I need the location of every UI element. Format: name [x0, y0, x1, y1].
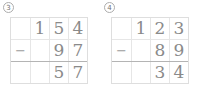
minus-operator-icon: −	[11, 40, 30, 61]
minuend-row: 1 5 4	[11, 18, 87, 39]
answer-row: 5 7	[11, 61, 87, 83]
answer-row: 3 4	[112, 61, 188, 83]
problem-number-badge: 4	[104, 2, 115, 13]
subtrahend-cell-1	[30, 40, 49, 61]
minuend-cell-1: 1	[30, 18, 49, 39]
answer-cell-2: 3	[150, 62, 169, 83]
subtrahend-cell-1	[131, 40, 150, 61]
subtrahend-cell-2: 9	[49, 40, 68, 61]
minuend-cell-2: 2	[150, 18, 169, 39]
minus-operator-icon: −	[112, 40, 131, 61]
minuend-cell-1: 1	[131, 18, 150, 39]
problem-3: 3 1 5 4 − 9 7 5 7	[0, 0, 101, 91]
answer-cell-3: 7	[68, 62, 87, 83]
minuend-cell-0	[11, 18, 30, 39]
calculation-grid: 1 2 3 − 8 9 3 4	[111, 17, 189, 84]
problem-4: 4 1 2 3 − 8 9 3 4	[101, 0, 202, 91]
answer-cell-1	[131, 62, 150, 83]
answer-cell-2: 5	[49, 62, 68, 83]
calculation-grid: 1 5 4 − 9 7 5 7	[10, 17, 88, 84]
minuend-row: 1 2 3	[112, 18, 188, 39]
subtrahend-cell-3: 9	[169, 40, 188, 61]
minuend-cell-3: 3	[169, 18, 188, 39]
subtrahend-row: − 8 9	[112, 39, 188, 61]
minuend-cell-0	[112, 18, 131, 39]
answer-cell-1	[30, 62, 49, 83]
subtrahend-cell-3: 7	[68, 40, 87, 61]
minuend-cell-2: 5	[49, 18, 68, 39]
minuend-cell-3: 4	[68, 18, 87, 39]
subtrahend-cell-2: 8	[150, 40, 169, 61]
answer-cell-3: 4	[169, 62, 188, 83]
worksheet: 3 1 5 4 − 9 7 5 7 4	[0, 0, 202, 91]
answer-cell-0	[112, 62, 131, 83]
problem-number-badge: 3	[3, 2, 14, 13]
subtrahend-row: − 9 7	[11, 39, 87, 61]
answer-cell-0	[11, 62, 30, 83]
